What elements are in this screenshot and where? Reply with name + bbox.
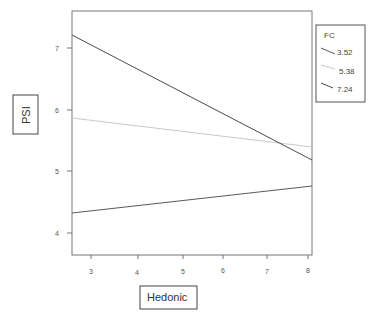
x-axis: 3 4 5 6 7 8 xyxy=(89,255,310,276)
svg-text:PSI: PSI xyxy=(20,106,32,124)
x-axis-title: Hedonic xyxy=(140,286,197,309)
y-axis-title: PSI xyxy=(13,95,38,134)
legend: FC 3.52 5.38 7.24 xyxy=(316,25,365,102)
legend-item-label: 5.38 xyxy=(339,67,355,76)
y-axis: 7 6 5 4 xyxy=(55,45,72,237)
x-tick-label: 3 xyxy=(89,268,93,275)
y-tick-label: 6 xyxy=(55,107,59,114)
series-line-5.38 xyxy=(72,118,312,147)
legend-title: FC xyxy=(324,31,335,40)
legend-item-label: 3.52 xyxy=(337,48,353,57)
x-tick-label: 7 xyxy=(265,268,269,275)
interaction-plot: 7 6 5 4 3 4 5 6 7 8 PSI Hedonic FC 3.52 xyxy=(0,0,378,321)
y-tick-label: 7 xyxy=(55,45,59,52)
legend-item-label: 7.24 xyxy=(337,85,353,94)
x-tick-label: 5 xyxy=(181,268,185,275)
series-line-7.24 xyxy=(72,35,312,160)
svg-text:Hedonic: Hedonic xyxy=(147,291,188,303)
x-tick-label: 6 xyxy=(221,267,225,274)
x-tick-label: 4 xyxy=(135,269,139,276)
series-line-3.52 xyxy=(72,186,312,213)
x-tick-label: 8 xyxy=(306,267,310,274)
y-tick-label: 5 xyxy=(55,168,59,175)
y-tick-label: 4 xyxy=(55,230,59,237)
